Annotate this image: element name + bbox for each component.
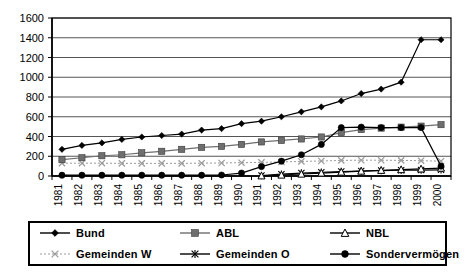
x-axis-tick-label: 1994 bbox=[312, 184, 323, 207]
diamond-data-point bbox=[358, 90, 364, 96]
x-axis-tick-label: 1986 bbox=[153, 184, 164, 207]
circle-data-point bbox=[179, 172, 185, 178]
y-axis-tick-label: 1000 bbox=[20, 71, 44, 83]
circle-data-point bbox=[398, 125, 404, 131]
diamond-data-point bbox=[338, 98, 344, 104]
square-data-point bbox=[298, 136, 304, 142]
square-data-point bbox=[119, 152, 125, 158]
series-gemeinden-w bbox=[59, 157, 444, 166]
legend-label-gemeinden-o: Gemeinden O bbox=[216, 248, 290, 260]
chart-screenshot: 0200400600800100012001400160019811982198… bbox=[0, 0, 476, 277]
diamond-marker-icon bbox=[38, 226, 72, 240]
square-data-point bbox=[179, 146, 185, 152]
circle-data-point bbox=[338, 125, 344, 131]
triangle-marker-icon bbox=[328, 226, 362, 240]
diamond-data-point bbox=[59, 146, 65, 152]
y-axis-tick-label: 1200 bbox=[20, 52, 44, 64]
x-axis-tick-label: 1996 bbox=[352, 184, 363, 207]
x-axis-tick-label: 1995 bbox=[332, 184, 343, 207]
circle-data-point bbox=[238, 170, 244, 176]
y-axis-tick-label: 600 bbox=[26, 111, 44, 123]
x-axis-tick-label: 1987 bbox=[173, 184, 184, 207]
diamond-data-point bbox=[139, 134, 145, 140]
square-data-point bbox=[218, 143, 224, 149]
x-axis-tick-label: 1983 bbox=[93, 184, 104, 207]
legend-label-bund: Bund bbox=[76, 227, 105, 239]
y-axis-tick-label: 0 bbox=[38, 170, 44, 182]
diamond-data-point bbox=[119, 136, 125, 142]
x-axis-tick-label: 1992 bbox=[272, 184, 283, 207]
square-data-point bbox=[318, 134, 324, 140]
x-axis-tick-label: 1982 bbox=[73, 184, 84, 207]
circle-data-point bbox=[438, 163, 444, 169]
x-marker-icon bbox=[38, 247, 72, 261]
x-axis-tick-label: 1990 bbox=[233, 184, 244, 207]
legend-item-abl: ABL bbox=[178, 226, 328, 240]
diamond-data-point bbox=[318, 104, 324, 110]
circle-data-point bbox=[159, 172, 165, 178]
diamond-data-point bbox=[218, 126, 224, 132]
diamond-data-point bbox=[298, 109, 304, 115]
circle-data-point bbox=[278, 158, 284, 164]
square-data-point bbox=[438, 122, 444, 128]
diamond-data-point bbox=[278, 114, 284, 120]
legend-item-sondervermoegen: Sondervermögen bbox=[328, 247, 459, 261]
legend-label-sondervermoegen: Sondervermögen bbox=[366, 248, 459, 260]
x-axis-tick-label: 1999 bbox=[412, 184, 423, 207]
x-axis-tick-label: 1988 bbox=[193, 184, 204, 207]
circle-data-point bbox=[218, 172, 224, 178]
circle-data-point bbox=[99, 172, 105, 178]
square-data-point bbox=[139, 150, 145, 156]
circle-data-point bbox=[199, 172, 205, 178]
legend-grid: Bund ABL NBL Gemeinden W Gemeinden O Son bbox=[30, 223, 445, 264]
legend-item-gemeinden-w: Gemeinden W bbox=[38, 247, 178, 261]
y-axis-tick-label: 400 bbox=[26, 131, 44, 143]
circle-data-point bbox=[358, 124, 364, 130]
circle-marker-icon bbox=[328, 247, 362, 261]
x-axis-tick-label: 1981 bbox=[53, 184, 64, 207]
x-axis-tick-label: 1984 bbox=[113, 184, 124, 207]
x-axis-tick-label: 1993 bbox=[292, 184, 303, 207]
legend-label-gemeinden-w: Gemeinden W bbox=[76, 248, 152, 260]
circle-data-point bbox=[342, 250, 349, 257]
chart-legend: Bund ABL NBL Gemeinden W Gemeinden O Son bbox=[28, 221, 447, 266]
circle-data-point bbox=[119, 172, 125, 178]
y-axis-tick-label: 1400 bbox=[20, 32, 44, 44]
x-axis-tick-label: 1985 bbox=[133, 184, 144, 207]
diamond-data-point bbox=[258, 118, 264, 124]
legend-item-bund: Bund bbox=[38, 226, 178, 240]
circle-data-point bbox=[298, 152, 304, 158]
circle-data-point bbox=[258, 164, 264, 170]
diamond-data-point bbox=[378, 86, 384, 92]
circle-data-point bbox=[318, 141, 324, 147]
diamond-data-point bbox=[398, 79, 404, 85]
diamond-data-point bbox=[99, 140, 105, 146]
diamond-data-point bbox=[159, 132, 165, 138]
legend-item-nbl: NBL bbox=[328, 226, 459, 240]
square-data-point bbox=[199, 144, 205, 150]
x-axis-tick-label: 1989 bbox=[213, 184, 224, 207]
y-axis-tick-label: 1600 bbox=[20, 12, 44, 24]
square-data-point bbox=[192, 230, 199, 237]
y-axis-tick-label: 200 bbox=[26, 150, 44, 162]
circle-data-point bbox=[59, 172, 65, 178]
square-data-point bbox=[99, 153, 105, 159]
square-data-point bbox=[278, 137, 284, 143]
circle-data-point bbox=[139, 172, 145, 178]
diamond-data-point bbox=[199, 127, 205, 133]
legend-label-abl: ABL bbox=[216, 227, 239, 239]
circle-data-point bbox=[79, 172, 85, 178]
square-data-point bbox=[59, 157, 65, 163]
x-axis-tick-label: 1997 bbox=[372, 184, 383, 207]
x-axis-tick-label: 2000 bbox=[432, 184, 443, 207]
diamond-data-point bbox=[238, 121, 244, 127]
circle-data-point bbox=[418, 125, 424, 131]
square-data-point bbox=[159, 148, 165, 154]
chart-plot-area: 0200400600800100012001400160019811982198… bbox=[0, 0, 476, 215]
legend-item-gemeinden-o: Gemeinden O bbox=[178, 247, 328, 261]
circle-data-point bbox=[378, 125, 384, 131]
square-data-point bbox=[79, 155, 85, 161]
x-axis-tick-label: 1991 bbox=[252, 184, 263, 207]
line-chart-svg: 0200400600800100012001400160019811982198… bbox=[0, 0, 476, 215]
diamond-data-point bbox=[52, 230, 59, 237]
